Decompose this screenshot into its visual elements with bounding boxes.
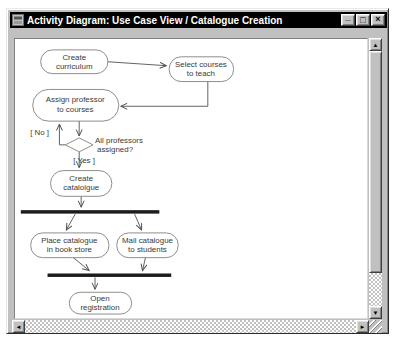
node-assign-professor[interactable]: Assign professor to courses bbox=[33, 89, 119, 121]
node-label-line2: catalolgue bbox=[63, 183, 100, 192]
scroll-down-icon: ▼ bbox=[373, 310, 379, 316]
node-label-line2: curriculum bbox=[56, 62, 93, 71]
activity-diagram-window: Activity Diagram: Use Case View / Catalo… bbox=[6, 8, 389, 334]
scroll-left-icon: ◄ bbox=[16, 324, 22, 330]
node-create-catalogue[interactable]: Create catalolgue bbox=[51, 171, 112, 197]
maximize-icon: □ bbox=[360, 16, 365, 25]
edge-mail-to-join[interactable] bbox=[143, 258, 146, 271]
scroll-right-icon: ► bbox=[360, 324, 366, 330]
activity-diagram-icon[interactable] bbox=[12, 14, 24, 26]
decision-label-line1: All professors bbox=[95, 136, 143, 145]
node-label-line1: Create bbox=[62, 53, 86, 62]
close-icon: × bbox=[375, 15, 380, 24]
window-titlebar[interactable]: Activity Diagram: Use Case View / Catalo… bbox=[10, 12, 387, 28]
node-place-catalogue[interactable]: Place catalogue in book store bbox=[31, 233, 109, 258]
fork-bar[interactable] bbox=[21, 210, 160, 213]
horizontal-scrollbar[interactable]: ◄ ► bbox=[12, 320, 369, 333]
node-label-line1: Assign professor bbox=[46, 95, 105, 104]
maximize-button[interactable]: □ bbox=[356, 14, 370, 26]
decision-all-professors-assigned[interactable]: All professors assigned? bbox=[65, 136, 143, 154]
edge-fork-to-place[interactable] bbox=[66, 214, 75, 230]
join-bar[interactable] bbox=[48, 273, 172, 276]
resize-corner[interactable] bbox=[369, 320, 382, 333]
vertical-scroll-thumb[interactable] bbox=[369, 51, 382, 273]
node-label-line2: in book store bbox=[47, 245, 93, 254]
node-label-line1: Mail catalogue bbox=[122, 236, 174, 245]
page-background: Activity Diagram: Use Case View / Catalo… bbox=[0, 0, 394, 344]
minimize-icon: _ bbox=[345, 13, 350, 22]
edge-create-to-select[interactable] bbox=[108, 62, 166, 66]
caption-buttons: _ □ × bbox=[341, 14, 385, 26]
vertical-scrollbar[interactable]: ▲ ▼ bbox=[369, 38, 382, 319]
minimize-button[interactable]: _ bbox=[341, 14, 355, 26]
diagram-canvas[interactable]: Create curriculum Select courses to teac… bbox=[14, 38, 368, 319]
close-button[interactable]: × bbox=[371, 14, 385, 26]
guard-label-no[interactable]: [ No ] bbox=[30, 128, 49, 137]
node-label-line2: to teach bbox=[187, 69, 215, 78]
node-select-courses[interactable]: Select courses to teach bbox=[169, 57, 233, 82]
scroll-right-button[interactable]: ► bbox=[356, 320, 369, 333]
window-title: Activity Diagram: Use Case View / Catalo… bbox=[27, 15, 338, 26]
scroll-up-button[interactable]: ▲ bbox=[369, 38, 382, 51]
guard-label-yes[interactable]: [ Yes ] bbox=[73, 156, 95, 165]
decision-label-line2: assigned? bbox=[97, 145, 134, 154]
edge-fork-to-mail[interactable] bbox=[135, 214, 142, 230]
scroll-down-button[interactable]: ▼ bbox=[369, 306, 382, 319]
scroll-left-button[interactable]: ◄ bbox=[12, 320, 25, 333]
decision-diamond bbox=[65, 138, 93, 152]
node-label-line1: Open bbox=[90, 294, 109, 303]
node-label-line1: Create bbox=[69, 174, 93, 183]
edge-decision-no-loop[interactable] bbox=[59, 124, 65, 145]
node-mail-catalogue[interactable]: Mail catalogue to students bbox=[117, 233, 178, 258]
scroll-up-icon: ▲ bbox=[373, 42, 379, 48]
node-label-line2: registration bbox=[80, 303, 119, 312]
node-label-line1: Select courses bbox=[175, 60, 227, 69]
node-label-line1: Place catalogue bbox=[41, 236, 98, 245]
node-create-curriculum[interactable]: Create curriculum bbox=[41, 50, 108, 74]
node-open-registration[interactable]: Open registration bbox=[69, 292, 131, 314]
node-label-line2: to students bbox=[128, 245, 167, 254]
node-label-line2: to courses bbox=[57, 105, 94, 114]
edge-place-to-join[interactable] bbox=[73, 258, 89, 271]
edge-select-to-assign[interactable] bbox=[121, 82, 208, 107]
